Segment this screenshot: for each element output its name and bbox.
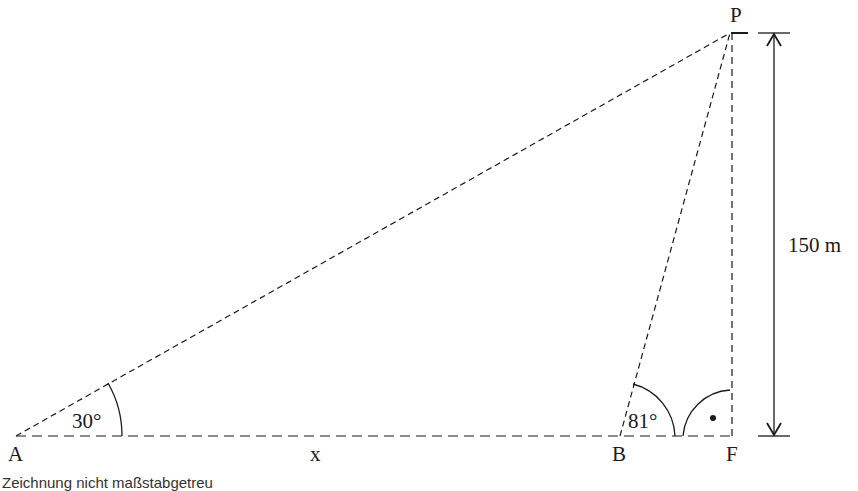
right-angle-arc-F [683, 390, 730, 436]
height-label: 150 m [788, 233, 841, 257]
point-label-P: P [730, 3, 742, 27]
point-label-F: F [726, 442, 738, 466]
point-label-A: A [8, 442, 24, 466]
line-BP [620, 33, 730, 436]
right-angle-dot [710, 415, 716, 421]
angle-label-B: 81° [628, 409, 657, 433]
point-label-B: B [612, 442, 626, 466]
caption: Zeichnung nicht maßstabgetreu [2, 474, 213, 491]
angle-arc-A [108, 383, 122, 436]
angle-label-A: 30° [72, 409, 101, 433]
line-AP [16, 33, 730, 436]
segment-label-x: x [310, 442, 321, 466]
